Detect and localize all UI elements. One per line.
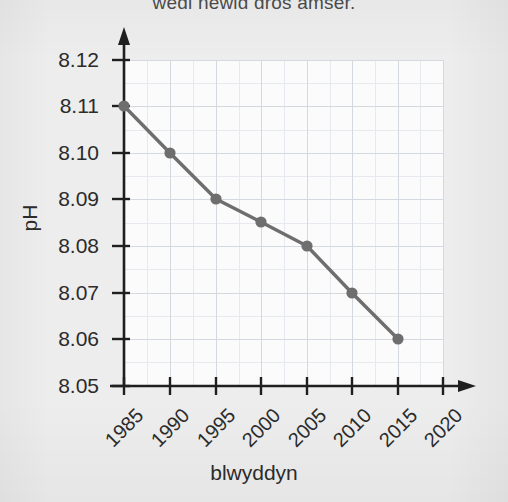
x-axis-arrowhead [458, 380, 476, 392]
y-tick-label-8.08: 8.08 [19, 234, 99, 258]
data-point-2010 [346, 287, 357, 298]
data-point-1985 [118, 100, 129, 111]
y-tick-label-8.10: 8.10 [19, 141, 99, 165]
ph-over-time-line-chart: 8.12 8.11 8.10 8.09 8.08 8.07 8.06 8.05 … [0, 0, 508, 502]
data-point-2005 [301, 240, 312, 251]
y-axis-title: pH [18, 205, 42, 232]
y-tick-label-8.07: 8.07 [19, 281, 99, 305]
x-axis-title: blwyddyn [0, 461, 508, 485]
data-point-1990 [164, 147, 175, 158]
y-tick-label-8.06: 8.06 [19, 327, 99, 351]
y-axis-arrowhead [118, 27, 130, 45]
data-point-2015 [392, 333, 403, 344]
y-tick-label-8.11: 8.11 [19, 94, 99, 118]
data-point-2000 [255, 216, 266, 227]
y-tick-label-8.12: 8.12 [19, 48, 99, 72]
y-tick-label-8.05: 8.05 [19, 374, 99, 398]
data-point-1995 [210, 193, 221, 204]
